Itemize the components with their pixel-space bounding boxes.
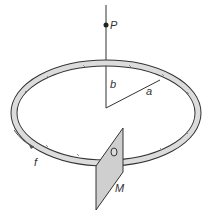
diagram-canvas: P b a M f (0, 0, 213, 217)
ring-diagram: P b a M f (0, 0, 213, 217)
label-f: f (34, 156, 38, 168)
surface-m-plane (96, 128, 123, 210)
point-p-marker (104, 23, 109, 28)
ring-crossing (111, 148, 117, 156)
label-b: b (110, 78, 116, 90)
charge-marks (25, 65, 189, 156)
label-p: P (110, 19, 118, 31)
label-a: a (146, 85, 152, 97)
label-m: M (115, 182, 125, 194)
